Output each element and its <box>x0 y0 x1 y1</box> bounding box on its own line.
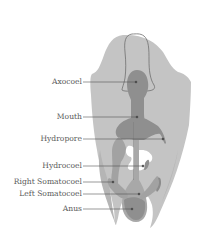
label-hydrocoel: Hydrocoel <box>42 161 82 170</box>
label-mouth: Mouth <box>57 112 82 121</box>
label-hydropore: Hydropore <box>40 134 82 143</box>
label-left-somatocoel: Left Somatocoel <box>19 189 82 198</box>
larva-anatomy-diagram <box>0 0 206 251</box>
label-axocoel: Axocoel <box>52 77 82 86</box>
label-anus: Anus <box>63 204 82 213</box>
label-right-somatocoel: Right Somatocoel <box>14 177 82 186</box>
